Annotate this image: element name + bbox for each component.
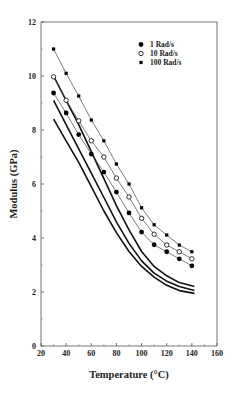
filled-circle-marker xyxy=(177,256,182,261)
x-tick-label: 20 xyxy=(37,349,45,358)
open-circle-marker xyxy=(165,243,169,247)
x-tick-label: 100 xyxy=(136,349,148,358)
y-axis-title: Modulus (GPa) xyxy=(8,149,20,219)
x-tick-label: 60 xyxy=(87,349,95,358)
open-circle-marker xyxy=(139,216,143,220)
y-tick-label: 4 xyxy=(32,234,36,243)
open-circle-marker xyxy=(64,98,68,102)
y-tick-label: 10 xyxy=(28,72,36,81)
filled-square-marker xyxy=(127,182,130,185)
open-circle-marker xyxy=(77,119,81,123)
model-curve xyxy=(54,119,195,293)
open-circle-marker xyxy=(177,250,181,254)
filled-square-marker xyxy=(65,72,68,75)
filled-circle-marker xyxy=(127,210,132,215)
model-curve xyxy=(54,100,195,290)
filled-circle-marker xyxy=(139,230,144,235)
open-circle-marker xyxy=(152,232,156,236)
model-curve xyxy=(54,76,195,287)
filled-square-marker xyxy=(190,250,193,253)
filled-square-marker xyxy=(102,139,105,142)
x-tick-label: 140 xyxy=(186,349,198,358)
open-circle-marker xyxy=(102,155,106,159)
filled-square-marker xyxy=(52,47,55,50)
filled-circle-marker xyxy=(152,242,157,247)
open-circle-marker xyxy=(114,176,118,180)
filled-square-marker xyxy=(140,206,143,209)
legend-label: 10 Rad/s xyxy=(150,49,178,58)
series-100-rad-s xyxy=(52,47,193,253)
filled-circle-marker xyxy=(51,91,56,96)
filled-circle-marker xyxy=(101,170,106,175)
filled-circle-marker xyxy=(76,132,81,137)
x-tick-label: 120 xyxy=(161,349,173,358)
filled-square-marker xyxy=(139,61,142,64)
y-tick-label: 2 xyxy=(32,288,36,297)
filled-square-marker xyxy=(165,233,168,236)
y-tick-label: 8 xyxy=(32,126,36,135)
open-circle-marker xyxy=(127,195,131,199)
filled-square-marker xyxy=(178,243,181,246)
modulus-temperature-chart: 20406080100120140160024681012 1 Rad/s10 … xyxy=(0,0,237,396)
model-curves xyxy=(54,76,195,293)
open-circle-marker xyxy=(51,75,55,79)
filled-square-marker xyxy=(90,118,93,121)
filled-circle-marker xyxy=(189,263,194,268)
legend: 1 Rad/s10 Rad/s100 Rad/s xyxy=(139,40,182,67)
open-circle-marker xyxy=(139,51,143,55)
filled-square-marker xyxy=(115,162,118,165)
filled-circle-marker xyxy=(164,249,169,254)
x-tick-label: 160 xyxy=(211,349,223,358)
x-tick-label: 40 xyxy=(62,349,70,358)
x-axis-title: Temperature (°C) xyxy=(89,369,169,381)
y-tick-label: 12 xyxy=(28,18,36,27)
data-series xyxy=(51,47,194,268)
filled-circle-marker xyxy=(114,190,119,195)
legend-label: 100 Rad/s xyxy=(150,58,182,67)
filled-circle-marker xyxy=(64,111,69,116)
open-circle-marker xyxy=(190,257,194,261)
legend-label: 1 Rad/s xyxy=(150,40,174,49)
y-tick-label: 0 xyxy=(32,342,36,351)
y-tick-label: 6 xyxy=(32,180,36,189)
x-tick-label: 80 xyxy=(112,349,120,358)
open-circle-marker xyxy=(89,139,93,143)
filled-circle-marker xyxy=(89,152,94,157)
filled-circle-marker xyxy=(139,42,144,47)
axis-ticks: 20406080100120140160024681012 xyxy=(28,18,223,358)
filled-square-marker xyxy=(153,223,156,226)
filled-square-marker xyxy=(77,94,80,97)
